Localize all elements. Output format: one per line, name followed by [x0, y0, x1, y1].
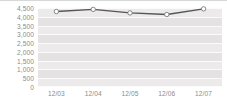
- data-point-marker[interactable]: [91, 7, 95, 11]
- series-line-group: [38, 8, 222, 87]
- y-axis-tick-label: 1,000: [17, 66, 34, 73]
- x-axis-tick-label: 12/06: [158, 89, 175, 98]
- y-axis-tick-label: 3,000: [17, 31, 34, 38]
- y-axis-tick-label: 4,500: [17, 5, 34, 12]
- x-axis: 12/0312/0412/0512/0612/07: [38, 89, 222, 101]
- y-axis-tick-label: 4,000: [17, 13, 34, 20]
- x-axis-tick-label: 12/03: [48, 89, 65, 98]
- y-axis-tick-label: 500: [23, 75, 34, 82]
- data-point-marker[interactable]: [201, 7, 205, 11]
- y-axis-tick-label: 3,500: [17, 22, 34, 29]
- x-axis-tick-label: 12/04: [85, 89, 102, 98]
- y-axis: 05001,0001,5002,0002,5003,0003,5004,0004…: [0, 0, 36, 101]
- y-axis-tick-label: 2,000: [17, 48, 34, 55]
- y-axis-tick-label: 2,500: [17, 40, 34, 47]
- line-chart-widget: 05001,0001,5002,0002,5003,0003,5004,0004…: [0, 0, 227, 101]
- plot-area: [38, 8, 222, 87]
- data-point-marker[interactable]: [54, 9, 58, 13]
- data-point-marker[interactable]: [128, 11, 132, 15]
- x-axis-tick-label: 12/05: [121, 89, 138, 98]
- y-axis-tick-label: 0: [30, 84, 34, 91]
- x-axis-tick-label: 12/07: [195, 89, 212, 98]
- y-axis-tick-label: 1,500: [17, 57, 34, 64]
- data-point-marker[interactable]: [165, 12, 169, 16]
